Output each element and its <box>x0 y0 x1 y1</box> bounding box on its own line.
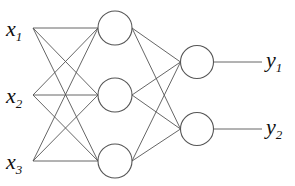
output-lines <box>214 62 263 129</box>
output-layer <box>181 46 214 146</box>
output-label-y2-sub: 2 <box>276 127 283 142</box>
hidden-output-edges <box>132 28 181 161</box>
input-label-x2-base: x <box>5 83 16 108</box>
neural-network-diagram: x1 x2 x3 y1 y2 <box>0 0 295 186</box>
input-label-x1-sub: 1 <box>16 29 23 44</box>
output-node-o1 <box>181 46 214 79</box>
input-label-x1: x1 <box>5 16 22 44</box>
input-label-x3-base: x <box>5 149 16 174</box>
hidden-node-h1 <box>98 11 132 45</box>
hidden-node-h3 <box>98 144 132 178</box>
input-hidden-edges <box>33 28 98 161</box>
input-label-x2: x2 <box>5 83 23 111</box>
output-labels: y1 y2 <box>264 47 283 142</box>
edge-h3-o2 <box>132 129 181 161</box>
hidden-node-h2 <box>98 78 132 112</box>
input-labels: x1 x2 x3 <box>5 16 23 177</box>
edge-h3-o1 <box>132 62 181 161</box>
output-label-y2-base: y <box>264 114 276 139</box>
edge-h2-o1 <box>132 62 181 95</box>
input-label-x1-base: x <box>5 16 16 41</box>
input-label-x3: x3 <box>5 149 23 177</box>
output-label-y1-base: y <box>264 47 276 72</box>
output-label-y1-sub: 1 <box>276 60 283 75</box>
output-label-y2: y2 <box>264 114 283 142</box>
output-label-y1: y1 <box>264 47 282 75</box>
input-label-x2-sub: 2 <box>16 96 23 111</box>
output-node-o2 <box>181 113 214 146</box>
input-label-x3-sub: 3 <box>15 162 23 177</box>
edge-h1-o1 <box>132 28 181 62</box>
hidden-layer <box>98 11 132 178</box>
